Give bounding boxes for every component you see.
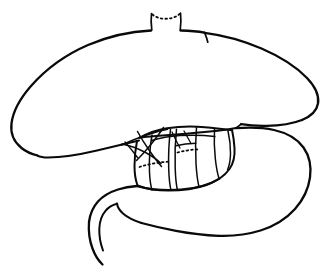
anatomy-line-drawing	[0, 0, 334, 270]
esophagus-left-wall	[151, 14, 152, 31]
esophagus-right-wall	[180, 13, 181, 31]
anatomical-figure: Line drawing of upper abdominal viscera …	[0, 0, 334, 270]
